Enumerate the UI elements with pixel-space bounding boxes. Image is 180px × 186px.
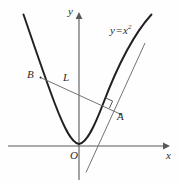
x-axis: [8, 143, 170, 150]
right-angle-marker-icon: [105, 98, 112, 108]
curve-equation-equals: =: [115, 24, 123, 36]
point-a-label: A: [117, 111, 124, 122]
parabola-curve: [24, 15, 152, 145]
origin-label: O: [70, 150, 78, 161]
curve-equation-label: y=x2: [110, 24, 132, 36]
point-b-marker: [40, 77, 42, 79]
parabola-figure: y x O B A L y=x2: [0, 0, 180, 186]
tangent-line: [86, 43, 145, 173]
y-axis-label: y: [68, 6, 73, 17]
figure-canvas: [0, 0, 180, 186]
point-b-label: B: [27, 69, 34, 80]
segment-l-label: L: [63, 72, 69, 83]
x-axis-label: x: [166, 150, 171, 161]
y-axis-arrowhead-icon: [76, 12, 83, 19]
curve-equation-exponent: 2: [128, 23, 132, 31]
